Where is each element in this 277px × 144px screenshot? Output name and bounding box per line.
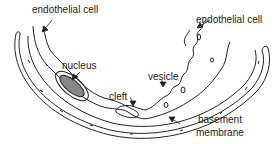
label-endothelial-cell-right: endothelial cell <box>196 14 262 25</box>
vesicle-3 <box>198 34 201 40</box>
capillary-diagram: endothelial cell endothelial cell nucleu… <box>0 0 277 144</box>
label-vesicle: vesicle <box>148 71 179 82</box>
label-cleft: cleft <box>109 91 127 102</box>
label-nucleus: nucleus <box>62 60 96 71</box>
label-basement-line2: membrane <box>196 127 244 138</box>
vesicle-1 <box>181 87 185 93</box>
nucleus-inner <box>57 72 88 100</box>
label-endothelial-cell-left: endothelial cell <box>32 4 98 15</box>
cleft <box>116 105 146 117</box>
endothelial-cell-right-border <box>146 20 206 110</box>
vesicle-4 <box>211 58 214 62</box>
vesicle-2 <box>164 103 168 108</box>
label-basement-line1: basement <box>198 114 242 125</box>
